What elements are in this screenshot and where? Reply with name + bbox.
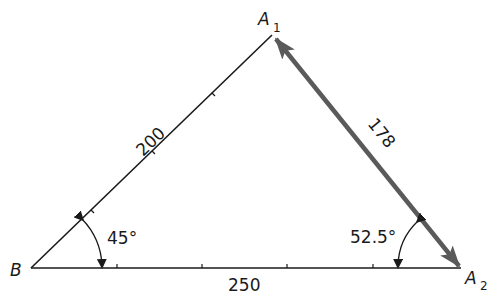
vertex-a2-subscript: 2 bbox=[480, 279, 488, 293]
angle-label-a2: 52.5° bbox=[350, 227, 396, 247]
side-label-178: 178 bbox=[364, 114, 400, 152]
ticks-b-a1 bbox=[91, 93, 215, 213]
vertex-a1-letter: A bbox=[257, 9, 270, 29]
angle-arc-b bbox=[82, 219, 102, 266]
vertex-label-a2: A 2 bbox=[464, 268, 488, 293]
angle-label-b: 45° bbox=[107, 228, 137, 248]
vertex-label-b: B bbox=[10, 260, 22, 280]
angle-arc-a2 bbox=[398, 221, 418, 266]
triangle-diagram: B A 1 A 2 200 250 178 45° 52.5° bbox=[0, 0, 499, 300]
vertex-a2-letter: A bbox=[464, 268, 477, 288]
vertex-a1-subscript: 1 bbox=[273, 21, 281, 35]
vertex-label-a1: A 1 bbox=[257, 9, 281, 35]
side-label-200: 200 bbox=[132, 123, 169, 160]
side-label-250: 250 bbox=[228, 275, 260, 295]
